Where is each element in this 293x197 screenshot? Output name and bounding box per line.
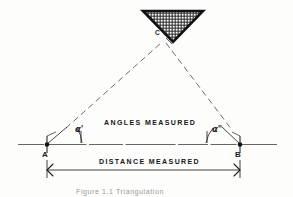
- point-label-a: A: [42, 150, 48, 159]
- angle-leg-right: [222, 127, 240, 144]
- sight-line-a-to-c: [66, 43, 161, 128]
- point-flag-a: [47, 132, 56, 136]
- annotation-angles-measured: ANGLES MEASURED: [104, 119, 196, 126]
- figure-page: C A B α' α" ANGLES MEASURED DISTANCE MEA…: [0, 0, 293, 197]
- inverted-triangle-station-marker: [143, 11, 203, 44]
- triangulation-diagram: [0, 0, 293, 197]
- point-label-c: C: [155, 29, 160, 36]
- figure-caption: Figure 1.1 Triangulation: [76, 188, 164, 195]
- point-flag-b: [232, 132, 240, 136]
- point-label-b: B: [235, 150, 241, 159]
- angle-label-right: α": [212, 124, 222, 134]
- sight-line-c-to-b: [166, 43, 232, 130]
- annotation-distance-measured: DISTANCE MEASURED: [99, 158, 200, 165]
- angle-leg-left: [47, 127, 67, 144]
- sight-lines-group: [66, 43, 232, 130]
- triangle-marker-fill: [143, 11, 203, 42]
- angle-label-left: α': [75, 124, 83, 134]
